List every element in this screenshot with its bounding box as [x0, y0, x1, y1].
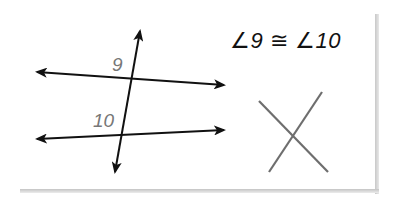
congruence-statement: ∠9 ≅ ∠10 [230, 28, 341, 54]
left-angle-number: 9 [251, 28, 264, 53]
cross-stroke-2 [269, 92, 322, 172]
transversal-diagram [0, 0, 407, 206]
right-angle-number: 10 [316, 28, 341, 53]
bottom-line [37, 130, 224, 139]
angle-symbol: ∠ [295, 28, 316, 53]
transversal-line [115, 31, 140, 172]
angle-label-10: 10 [93, 110, 114, 132]
angle-label-9: 9 [112, 54, 123, 76]
angle-symbol: ∠ [230, 28, 251, 53]
congruence-symbol: ≅ [270, 28, 289, 53]
